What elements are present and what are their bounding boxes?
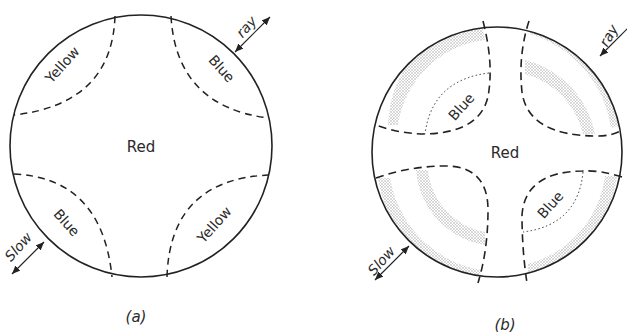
quadrant-label-bottom-left-a: Blue [50, 206, 83, 240]
ray-label-a: ray [233, 12, 261, 40]
caption-b: (b) [494, 316, 515, 332]
panel-a: Red Yellow Blue Blue Yellow ray Slow (a) [1, 12, 272, 326]
panel-b: Red Blue Blue ray Slow (b) [364, 21, 627, 332]
center-label-b: Red [491, 144, 520, 162]
quadrant-label-top-left-a: Yellow [41, 43, 82, 86]
center-label-a: Red [127, 138, 156, 156]
quadrant-label-bottom-right-a: Yellow [193, 203, 234, 246]
quadrant-label-top-left-b: Blue [445, 90, 478, 124]
quadrant-label-bottom-right-b: Blue [534, 188, 567, 222]
caption-a: (a) [126, 308, 147, 326]
ray-label-b: ray [596, 21, 622, 49]
slow-label-a: Slow [1, 229, 35, 264]
quadrant-label-top-right-a: Blue [205, 52, 238, 86]
interference-figure: Red Yellow Blue Blue Yellow ray Slow (a) [0, 0, 627, 332]
